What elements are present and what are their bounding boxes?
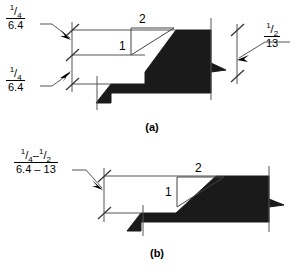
callout-upper-left-metric: 6.4 — [6, 19, 25, 31]
callout-figure-b-range: 1/4–1/2 6.4 – 13 — [14, 150, 58, 175]
callout-lower-left: 1/4 6.4 — [6, 68, 25, 93]
figure-b-section-fill — [127, 176, 284, 231]
figure-b-arrowhead-left — [92, 180, 103, 190]
figure-a-section-fill — [96, 30, 226, 103]
figure-b-slope-rise-label: 1 — [165, 186, 172, 198]
figure-a-arrowhead-lower-left — [60, 71, 71, 82]
figure-b-caption: (b) — [140, 248, 174, 259]
figure-a-caption: (a) — [135, 122, 169, 133]
callout-figure-b-imperial: 1/4–1/2 — [14, 150, 58, 162]
figure-a-geometry — [40, 18, 290, 110]
callout-upper-left-imperial: 1/4 — [6, 6, 25, 18]
callout-figure-b-metric: 6.4 – 13 — [14, 163, 58, 175]
figure-a-slope-run-label: 2 — [139, 13, 146, 25]
drawing-vector-layer — [0, 0, 304, 271]
technical-drawing-canvas — [0, 0, 304, 271]
figure-b-geometry — [72, 166, 284, 236]
callout-right: 1/2 13 — [264, 24, 280, 49]
callout-lower-left-imperial: 1/4 — [6, 68, 25, 80]
figure-b-slope-run-label: 2 — [195, 162, 202, 174]
figure-a-slope-rise-label: 1 — [119, 40, 126, 52]
callout-upper-left: 1/4 6.4 — [6, 6, 25, 31]
callout-right-metric: 13 — [264, 37, 280, 49]
callout-lower-left-metric: 6.4 — [6, 81, 25, 93]
callout-right-imperial: 1/2 — [264, 24, 280, 36]
